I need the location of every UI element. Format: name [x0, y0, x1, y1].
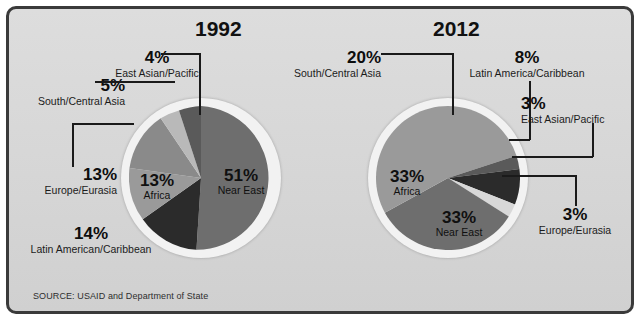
- callout-pct: 3%: [517, 206, 633, 223]
- leader-line-europe-2012: [502, 175, 576, 177]
- leader-line-east-asian-2012: [512, 156, 593, 158]
- chart-title-2012: 2012: [433, 17, 480, 41]
- pie-panel-2012: 2012 33% Africa: [9, 9, 631, 311]
- callout-south-central-asia-2012: 20% South/Central Asia: [265, 49, 381, 79]
- callout-europe-eurasia-2012: 3% Europe/Eurasia: [517, 206, 633, 236]
- callout-name: Europe/Eurasia: [517, 224, 633, 236]
- slice-label-near-east-2012: 33% Near East: [421, 209, 497, 238]
- leader-line-south-central-2012: [381, 53, 453, 55]
- slice-pct: 33%: [376, 168, 438, 185]
- slice-name: Near East: [421, 226, 497, 238]
- callout-name: East Asian/Pacific: [521, 113, 634, 125]
- slice-pct: 33%: [421, 209, 497, 226]
- leader-line-east-asian-vertical-2012: [592, 123, 594, 157]
- callout-pct: 8%: [449, 49, 605, 66]
- callout-pct: 20%: [265, 49, 381, 66]
- callout-latin-america-2012: 8% Latin America/Caribbean: [449, 49, 605, 79]
- callout-east-asian-pacific-2012: 3% East Asian/Pacific: [521, 95, 634, 125]
- slice-name: Africa: [376, 185, 438, 197]
- callout-name: Latin America/Caribbean: [449, 67, 605, 79]
- leader-line-latin-2012: [509, 139, 530, 141]
- slice-label-africa-2012: 33% Africa: [376, 168, 438, 197]
- callout-name: South/Central Asia: [265, 67, 381, 79]
- callout-pct: 3%: [521, 95, 634, 112]
- chart-frame: 1992 51% Near East: [6, 6, 634, 314]
- leader-line-europe-vertical-2012: [575, 175, 577, 206]
- infographic-root: 1992 51% Near East: [0, 0, 640, 320]
